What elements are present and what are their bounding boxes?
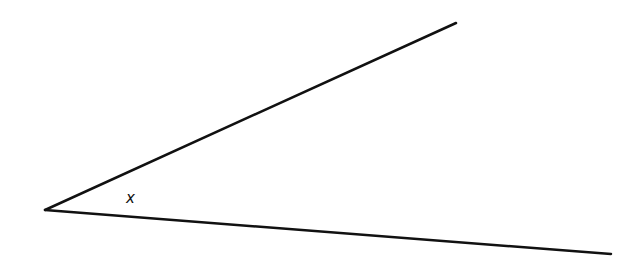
upper-ray: [45, 23, 456, 210]
angle-diagram: x: [0, 0, 638, 267]
lower-ray: [45, 210, 611, 254]
angle-label: x: [125, 189, 135, 207]
